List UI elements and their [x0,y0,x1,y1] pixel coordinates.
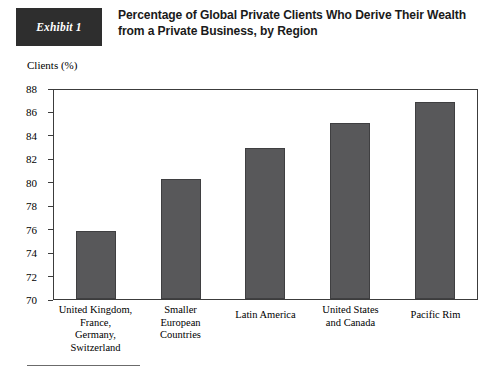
y-axis-tick: 82 [26,153,53,165]
footnote-separator [27,365,140,366]
bar-slot [54,90,139,299]
x-axis-tick-label: Pacific Rim [411,309,461,322]
bar-slot [392,90,477,299]
y-axis-tick-label: 76 [26,224,37,236]
bar-slot [308,90,393,299]
y-axis-tick-label: 70 [26,294,37,306]
x-axis-tick-label: United Kingdom, France, Germany, Switzer… [59,304,133,354]
x-axis-label-slot: United Kingdom, France, Germany, Switzer… [53,304,138,355]
bar-pacific-rim [415,102,455,299]
y-axis-tick: 80 [26,177,53,189]
exhibit-number-box: Exhibit 1 [16,8,102,46]
y-axis-tick: 88 [26,83,53,95]
y-axis-tick: 76 [26,224,53,236]
y-axis-tick-label: 80 [26,177,37,189]
y-axis-tick: 72 [26,271,53,283]
y-axis-tick-label: 84 [26,130,37,142]
x-axis-label-slot: United States and Canada [308,304,393,355]
x-axis-label-slot: Latin America [223,304,308,355]
bar-slot [139,90,224,299]
y-axis-tick: 70 [26,294,53,306]
bar-smaller-european-countries [161,179,201,299]
y-axis-tick: 74 [26,247,53,259]
bar-united-kingdom-france-germany-switzerland [76,231,116,299]
y-axis-tick-label: 86 [26,106,37,118]
y-axis-tick: 84 [26,130,53,142]
x-axis-label-slot: Pacific Rim [393,304,478,355]
x-axis-labels: United Kingdom, France, Germany, Switzer… [53,304,478,355]
exhibit-header: Exhibit 1 Percentage of Global Private C… [16,8,486,46]
y-axis-tick-label: 74 [26,247,37,259]
y-axis-tick-label: 82 [26,153,37,165]
y-axis-tick-label: 72 [26,271,37,283]
page-title: Percentage of Global Private Clients Who… [118,8,466,39]
y-axis-tick: 78 [26,200,53,212]
bar-slot [223,90,308,299]
x-axis-tick-label: Smaller European Countries [160,304,201,342]
y-axis-tick-label: 88 [26,83,37,95]
y-axis-ticks: 88 86 84 82 80 78 [0,89,53,300]
bar-chart: Clients (%) 88 86 84 82 80 [0,52,494,352]
exhibit-figure: Exhibit 1 Percentage of Global Private C… [0,0,494,379]
plot-area [53,89,478,300]
x-axis-tick-label: Latin America [235,309,295,322]
y-axis-title: Clients (%) [27,59,77,71]
y-axis-tick-label: 78 [26,200,37,212]
bar-united-states-and-canada [330,123,370,299]
x-axis-tick-label: United States and Canada [322,304,378,329]
x-axis-label-slot: Smaller European Countries [138,304,223,355]
bar-series [54,90,477,299]
y-axis-tick: 86 [26,106,53,118]
exhibit-title-container: Percentage of Global Private Clients Who… [102,8,486,46]
bar-latin-america [245,148,285,299]
exhibit-number-label: Exhibit 1 [36,21,82,33]
